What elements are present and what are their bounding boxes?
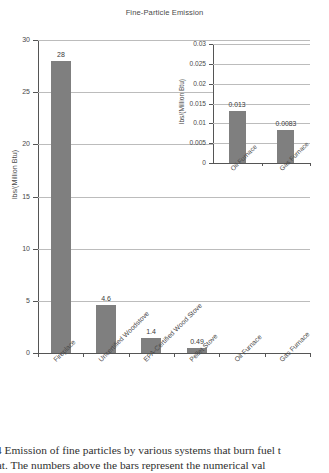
inset-y-tick-label: 0.02 xyxy=(168,80,206,87)
main-y-axis-title: lbs/(Million Btu) xyxy=(10,120,19,230)
x-tick xyxy=(310,353,311,357)
x-tick xyxy=(219,353,220,357)
inset-y-tick-label: 0.03 xyxy=(168,40,206,47)
y-tick-label: 10 xyxy=(2,245,30,252)
y-tick-label: 0 xyxy=(2,349,30,356)
gridline xyxy=(38,249,310,250)
x-tick xyxy=(129,353,130,357)
y-tick-label: 30 xyxy=(2,36,30,43)
inset-y-tick xyxy=(209,163,213,164)
figure: Fine-Particle Emission lbs/(Million Btu)… xyxy=(0,0,329,440)
inset-bar-value-label: 0.013 xyxy=(217,101,257,108)
inset-gridline xyxy=(213,64,310,65)
caption-line-2: heat. The numbers above the bars represe… xyxy=(0,458,329,473)
gridline xyxy=(38,301,310,302)
x-tick xyxy=(38,353,39,357)
inset-y-tick-label: 0.005 xyxy=(168,139,206,146)
y-tick-label: 20 xyxy=(2,140,30,147)
inset-x-tick xyxy=(310,163,311,166)
y-tick-label: 5 xyxy=(2,297,30,304)
inset-gridline xyxy=(213,84,310,85)
figure-caption: 4 Emission of fine particles by various … xyxy=(0,443,329,473)
inset-bar-value-label: 0.0083 xyxy=(266,120,306,127)
bar xyxy=(51,61,71,353)
x-tick xyxy=(174,353,175,357)
bar-value-label: 4.6 xyxy=(86,295,126,302)
bar-value-label: 28 xyxy=(41,51,81,58)
inset-x-tick xyxy=(262,163,263,166)
x-tick xyxy=(83,353,84,357)
inset-y-tick-label: 0.01 xyxy=(168,119,206,126)
inset-bar-chart: lbs/(Million Btu) 00.0050.010.0150.020.0… xyxy=(168,40,316,205)
inset-y-tick-label: 0.015 xyxy=(168,100,206,107)
y-tick-label: 25 xyxy=(2,88,30,95)
x-tick xyxy=(265,353,266,357)
inset-gridline xyxy=(213,143,310,144)
inset-y-tick-label: 0.025 xyxy=(168,60,206,67)
caption-line-1: 4 Emission of fine particles by various … xyxy=(0,443,329,458)
inset-gridline xyxy=(213,44,310,45)
inset-y-tick-label: 0 xyxy=(168,159,206,166)
y-tick-label: 15 xyxy=(2,193,30,200)
